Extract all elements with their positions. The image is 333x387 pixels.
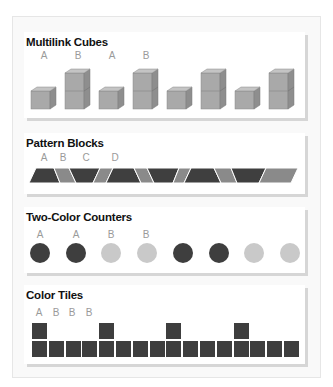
pattern-block-row bbox=[24, 133, 305, 194]
color-tile bbox=[150, 341, 165, 357]
color-tile bbox=[99, 341, 114, 357]
color-tile bbox=[66, 341, 81, 357]
multilink-cubes-card: Multilink Cubes ABAB bbox=[24, 32, 305, 118]
color-tile bbox=[250, 341, 265, 357]
pattern-label: B bbox=[65, 307, 79, 318]
color-tile bbox=[284, 341, 299, 357]
pattern-label: B bbox=[104, 229, 118, 240]
pattern-blocks-card: Pattern Blocks ABCD bbox=[24, 133, 305, 194]
multilink-cube-stack bbox=[269, 69, 294, 109]
pattern-label: A bbox=[69, 229, 83, 240]
color-tile bbox=[217, 341, 232, 357]
pattern-label: B bbox=[82, 307, 96, 318]
multilink-cube-stack bbox=[133, 69, 158, 109]
multilink-cube-stack bbox=[65, 69, 90, 109]
two-color-counters-card: Two-Color Counters AABB bbox=[24, 207, 305, 273]
color-tile bbox=[183, 341, 198, 357]
counter-dark bbox=[209, 243, 229, 263]
pattern-block bbox=[259, 168, 298, 183]
section-title: Color Tiles bbox=[26, 289, 83, 301]
color-tile bbox=[32, 341, 47, 357]
pattern-label: A bbox=[32, 307, 46, 318]
color-tile bbox=[234, 323, 249, 339]
pattern-label: B bbox=[49, 307, 63, 318]
multilink-cube-stack bbox=[235, 87, 260, 109]
counter-dark bbox=[66, 243, 86, 263]
multilink-cube-stack bbox=[99, 87, 124, 109]
counter-dark bbox=[30, 243, 50, 263]
section-title: Two-Color Counters bbox=[26, 211, 132, 223]
counter-dark bbox=[173, 243, 193, 263]
color-tile bbox=[234, 341, 249, 357]
color-tile bbox=[133, 341, 148, 357]
color-tile bbox=[166, 323, 181, 339]
counter-light bbox=[101, 243, 121, 263]
counter-light bbox=[244, 243, 264, 263]
color-tile bbox=[49, 341, 64, 357]
color-tiles-card: Color Tiles ABBB bbox=[24, 285, 305, 364]
color-tile bbox=[32, 323, 47, 339]
cube-row bbox=[24, 32, 305, 118]
color-tile bbox=[267, 341, 282, 357]
pattern-label: B bbox=[139, 229, 153, 240]
counter-light bbox=[137, 243, 157, 263]
color-tile bbox=[166, 341, 181, 357]
multilink-cube-stack bbox=[201, 69, 226, 109]
multilink-cube-stack bbox=[167, 87, 192, 109]
multilink-cube-stack bbox=[31, 87, 56, 109]
color-tile bbox=[200, 341, 215, 357]
pattern-label: A bbox=[33, 229, 47, 240]
color-tile bbox=[116, 341, 131, 357]
color-tile bbox=[99, 323, 114, 339]
color-tile bbox=[82, 341, 97, 357]
counter-light bbox=[280, 243, 300, 263]
